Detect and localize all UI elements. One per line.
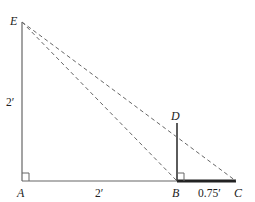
measure-bc: 0.75′ [198,187,221,199]
right-angle-marker-a [22,173,29,181]
point-label-d: D [170,109,180,123]
dashed-segment-eb [22,22,177,181]
point-label-a: A [16,186,25,200]
point-label-e: E [9,14,18,28]
geometry-diagram: E A B C D 2′ 2′ 0.75′ [0,0,255,202]
point-label-b: B [172,186,180,200]
dashed-segment-ec [22,22,236,181]
measure-ae: 2′ [6,96,14,108]
point-label-c: C [234,186,243,200]
measure-ab: 2′ [95,187,103,199]
